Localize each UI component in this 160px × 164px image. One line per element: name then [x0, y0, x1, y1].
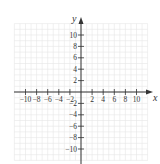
x-tick-label: 10: [133, 95, 141, 104]
y-tick-label: 10: [70, 31, 78, 40]
x-tick-label: −10: [20, 95, 32, 104]
x-tick-label: 2: [90, 95, 94, 104]
y-tick-label: 4: [73, 65, 77, 74]
x-axis-label: x: [152, 92, 158, 103]
y-tick-label: −8: [69, 133, 77, 142]
y-tick-label: −4: [69, 110, 77, 119]
y-tick-label: −6: [69, 122, 77, 131]
coordinate-plane: x y −10−8−6−4−2246810 108642−2−4−6−8−10: [0, 0, 160, 164]
y-axis-label: y: [71, 13, 77, 24]
x-axis-arrow-icon: [146, 90, 153, 95]
x-tick-label: −4: [55, 95, 63, 104]
x-tick-label: 6: [112, 95, 116, 104]
y-tick-label: −10: [65, 145, 77, 154]
y-tick-label: 6: [73, 53, 77, 62]
x-tick-label: 4: [101, 95, 105, 104]
y-tick-label: 8: [73, 42, 77, 51]
y-axis-arrow-icon: [79, 17, 84, 24]
x-axis-ticks: −10−8−6−4−2246810: [20, 89, 141, 104]
y-tick-label: −2: [69, 99, 77, 108]
y-tick-label: 2: [73, 76, 77, 85]
x-tick-label: −8: [33, 95, 41, 104]
x-tick-label: −6: [44, 95, 52, 104]
x-tick-label: 8: [124, 95, 128, 104]
